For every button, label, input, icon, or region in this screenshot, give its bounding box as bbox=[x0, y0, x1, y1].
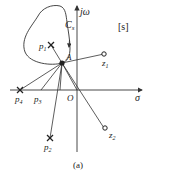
origin-label: O bbox=[67, 93, 74, 103]
pole-p1-label: p1 bbox=[38, 41, 47, 52]
pole-p2-label: p2 bbox=[43, 142, 52, 153]
figure-caption: (a) bbox=[73, 160, 83, 170]
contour-direction-arrow bbox=[69, 40, 70, 47]
zero-z2-marker bbox=[103, 126, 107, 130]
vector-lines bbox=[20, 45, 104, 138]
contour-label: Cs bbox=[65, 19, 75, 32]
pole-p3-label: p3 bbox=[33, 94, 42, 105]
zero-z1-marker bbox=[102, 52, 106, 56]
point-a-label: A bbox=[65, 52, 72, 62]
contour-cs bbox=[24, 5, 70, 64]
s-plane-diagram: jω σ O [s] Cs A p1 p2 p3 p4 z1 z2 (a) bbox=[0, 0, 176, 178]
imag-axis-label: jω bbox=[78, 6, 90, 17]
zero-z1-label: z1 bbox=[101, 58, 109, 69]
plane-label: [s] bbox=[118, 21, 129, 32]
pole-p4-label: p4 bbox=[14, 94, 23, 105]
pole-p1-marker bbox=[48, 42, 54, 48]
point-a-marker bbox=[59, 60, 64, 65]
zero-z2-label: z2 bbox=[108, 130, 116, 141]
real-axis-label: σ bbox=[135, 92, 141, 103]
